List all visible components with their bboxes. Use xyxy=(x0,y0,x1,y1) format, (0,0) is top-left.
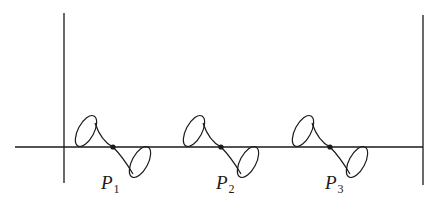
point-label-p2: P2 xyxy=(216,173,235,192)
lower-ellipse xyxy=(342,143,372,181)
point-label-p3: P3 xyxy=(325,173,344,192)
lower-connector xyxy=(330,147,350,174)
point-marker-p3 xyxy=(327,144,332,149)
upper-connector xyxy=(312,123,330,147)
upper-ellipse xyxy=(288,112,318,150)
upper-ellipse xyxy=(179,112,209,150)
label-letter: P xyxy=(216,172,228,193)
lower-ellipse xyxy=(233,143,263,181)
label-subscript: 3 xyxy=(338,182,344,196)
lower-connector xyxy=(221,147,241,174)
label-subscript: 2 xyxy=(229,182,235,196)
point-marker-p1 xyxy=(110,144,115,149)
point-marker-p2 xyxy=(218,144,223,149)
point-label-p1: P1 xyxy=(101,173,120,192)
label-letter: P xyxy=(101,172,113,193)
lower-connector xyxy=(113,147,133,174)
upper-ellipse xyxy=(71,112,101,150)
upper-connector xyxy=(203,123,221,147)
label-subscript: 1 xyxy=(114,182,120,196)
lower-ellipse xyxy=(125,143,155,181)
upper-connector xyxy=(95,123,113,147)
label-letter: P xyxy=(325,172,337,193)
